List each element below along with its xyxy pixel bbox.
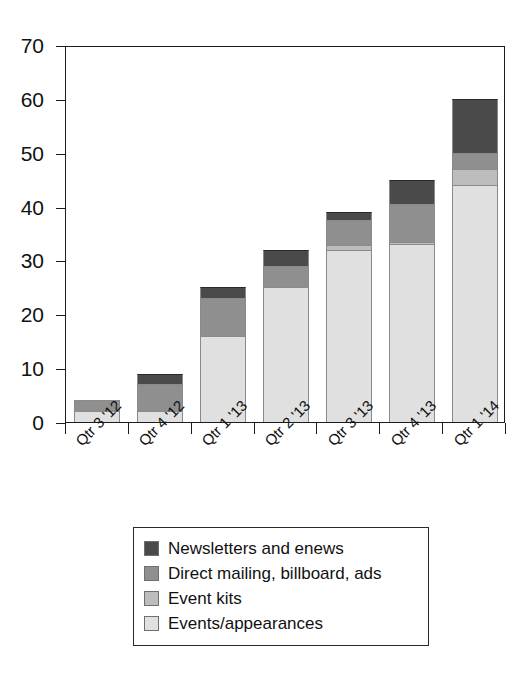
- x-axis-tick-mark: [505, 423, 506, 434]
- legend-item: Newsletters and enews: [144, 536, 418, 561]
- legend-label: Newsletters and enews: [168, 540, 344, 557]
- bar-segment: [200, 298, 246, 336]
- y-axis-tick-label: 70: [0, 35, 44, 56]
- plot-frame: [65, 46, 505, 423]
- x-axis-tick-mark: [254, 423, 255, 434]
- y-axis-tick-mark: [56, 261, 65, 262]
- bar-5: [326, 212, 372, 422]
- plot-area: 010203040506070 Qtr 3 '12Qtr 4 '12Qtr 1 …: [0, 0, 525, 450]
- bar-segment: [389, 244, 435, 422]
- x-axis-tick-mark: [442, 423, 443, 434]
- bar-6: [389, 180, 435, 422]
- bar-segment: [263, 250, 309, 266]
- bar-segment: [452, 169, 498, 185]
- bar-segment: [452, 99, 498, 153]
- bar-segment: [452, 153, 498, 169]
- bar-segment: [200, 287, 246, 298]
- y-axis-tick-mark: [56, 369, 65, 370]
- x-axis-tick-mark: [128, 423, 129, 434]
- legend-swatch-icon: [144, 591, 159, 606]
- bar-segment: [326, 220, 372, 245]
- y-axis-tick-label: 60: [0, 89, 44, 110]
- bar-segment: [137, 374, 183, 385]
- y-axis-tick-label: 0: [0, 412, 44, 433]
- y-axis-tick-mark: [56, 208, 65, 209]
- bar-segment: [263, 266, 309, 288]
- bar-segment: [389, 180, 435, 204]
- y-axis-tick-mark: [56, 46, 65, 47]
- bar-segment: [326, 250, 372, 422]
- bar-segment: [452, 185, 498, 422]
- legend-swatch-icon: [144, 616, 159, 631]
- legend-label: Event kits: [168, 590, 242, 607]
- legend-label: Events/appearances: [168, 615, 323, 632]
- y-axis-tick-mark: [56, 154, 65, 155]
- bar-7: [452, 99, 498, 422]
- bar-segment: [326, 212, 372, 220]
- y-axis-tick-mark: [56, 423, 65, 424]
- legend-item: Direct mailing, billboard, ads: [144, 561, 418, 586]
- legend-item: Event kits: [144, 586, 418, 611]
- x-axis-tick-mark: [316, 423, 317, 434]
- y-axis-tick-label: 30: [0, 250, 44, 271]
- x-axis-tick-mark: [191, 423, 192, 434]
- y-axis-tick-label: 10: [0, 358, 44, 379]
- y-axis-tick-label: 40: [0, 197, 44, 218]
- y-axis-tick-label: 50: [0, 143, 44, 164]
- y-axis-tick-label: 20: [0, 304, 44, 325]
- y-axis-tick-mark: [56, 100, 65, 101]
- legend-item: Events/appearances: [144, 611, 418, 636]
- bar-4: [263, 250, 309, 422]
- y-axis-tick-mark: [56, 315, 65, 316]
- stacked-bar-chart-figure: 010203040506070 Qtr 3 '12Qtr 4 '12Qtr 1 …: [0, 0, 525, 689]
- legend-swatch-icon: [144, 541, 159, 556]
- x-axis-tick-mark: [379, 423, 380, 434]
- chart-legend: Newsletters and enewsDirect mailing, bil…: [133, 527, 429, 646]
- legend-swatch-icon: [144, 566, 159, 581]
- x-axis-tick-mark: [65, 423, 66, 434]
- bar-segment: [389, 204, 435, 242]
- legend-label: Direct mailing, billboard, ads: [168, 565, 382, 582]
